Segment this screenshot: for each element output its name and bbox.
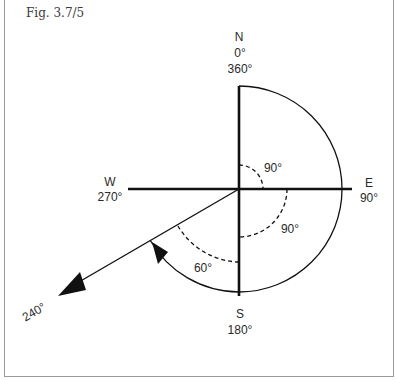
dashed-arc-se — [239, 189, 287, 237]
dashed-arc-ne — [239, 165, 263, 189]
angle-label-se: 90° — [281, 222, 299, 236]
angle-label-sw: 60° — [194, 261, 212, 275]
east-deg: 90° — [360, 191, 378, 205]
north-deg-0: 0° — [234, 46, 246, 60]
east-letter: E — [365, 176, 373, 190]
north-letter: N — [235, 30, 244, 44]
south-deg: 180° — [228, 323, 253, 337]
dashed-arc-sw — [178, 226, 239, 262]
west-letter: W — [104, 175, 116, 189]
west-deg: 270° — [98, 190, 123, 204]
north-deg-360: 360° — [228, 62, 253, 76]
bearing-label: 240° — [20, 300, 49, 325]
angle-label-ne: 90° — [264, 161, 282, 175]
south-letter: S — [236, 307, 244, 321]
compass-diagram: N 0° 360° W 270° E 90° S 180° 90° 90° 60… — [0, 0, 398, 380]
bearing-arrowhead-icon — [58, 272, 86, 296]
